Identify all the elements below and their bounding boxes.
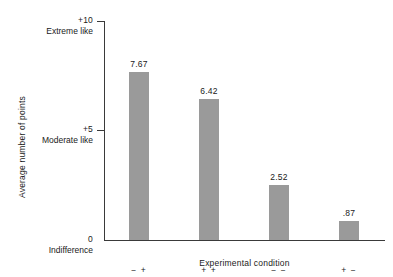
bar-group-2: 2.52 [244, 21, 314, 240]
bar-1[interactable] [199, 99, 219, 240]
bar-group-0: 7.67 [104, 21, 174, 240]
y-tick-label-5: +5 [0, 125, 93, 134]
bar-value-label-1: 6.42 [200, 86, 217, 96]
y-axis-title: Average number of points [17, 72, 27, 222]
bar-value-label-3: .87 [343, 208, 355, 218]
y-tick-caption-indifference: Indifference [0, 245, 93, 255]
bar-group-3: .87 [314, 21, 384, 240]
bar-chart: +10 Extreme like +5 Moderate like 0 Indi… [0, 0, 393, 277]
bar-0[interactable] [129, 72, 149, 240]
x-axis-title: Experimental condition [104, 258, 385, 268]
y-tick-caption-moderate-like: Moderate like [0, 135, 93, 145]
y-tick-mark-5 [97, 130, 104, 131]
y-tick-label-0: 0 [0, 235, 93, 244]
y-tick-label-10: +10 [0, 16, 93, 25]
bar-value-label-2: 2.52 [270, 172, 287, 182]
bar-value-label-0: 7.67 [130, 59, 147, 69]
y-tick-mark-10 [97, 21, 104, 22]
y-tick-caption-extreme-like: Extreme like [0, 26, 93, 36]
plot-area: 7.67 6.42 2.52 .87 − + + + − − + − [104, 21, 385, 240]
bar-3[interactable] [339, 221, 359, 240]
bar-group-1: 6.42 [174, 21, 244, 240]
x-axis-line [104, 240, 385, 241]
bar-2[interactable] [269, 185, 289, 240]
